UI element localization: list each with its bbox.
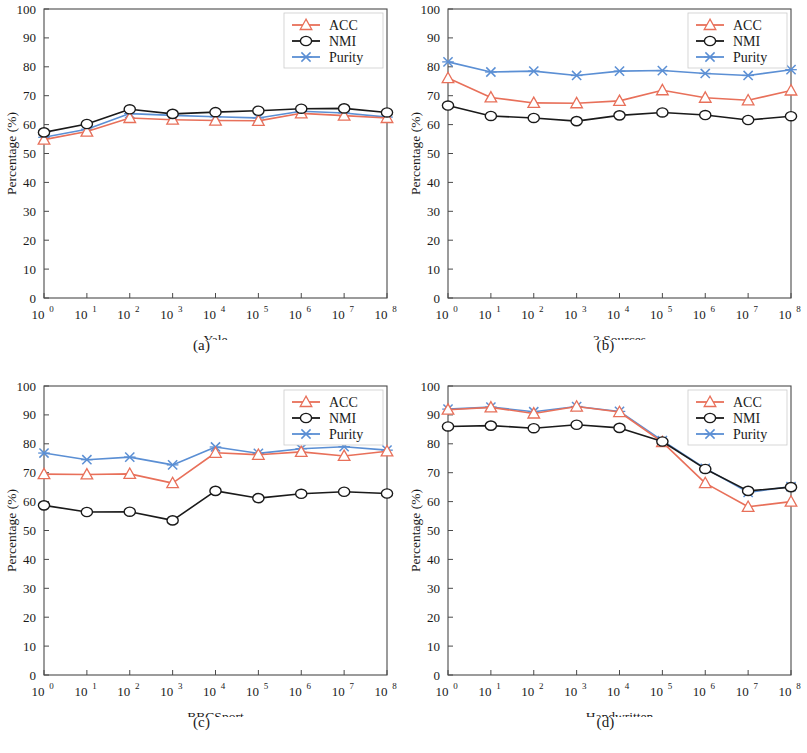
x-tick-label: 105 (246, 681, 269, 699)
plot-svg-a: 0102030405060708090100100101102103104105… (0, 0, 403, 340)
legend: ACCNMIPurity (284, 13, 383, 68)
x-tick-label: 108 (779, 681, 802, 699)
svg-text:6: 6 (307, 681, 312, 691)
svg-text:10: 10 (779, 684, 792, 699)
y-tick-label: 50 (427, 523, 440, 538)
x-tick-label: 107 (332, 681, 355, 699)
legend-label-acc: ACC (329, 18, 358, 33)
x-tick-label: 101 (478, 304, 500, 322)
svg-text:10: 10 (332, 307, 345, 322)
series-acc (442, 72, 797, 107)
x-tick-label: 108 (779, 304, 802, 322)
y-tick-label: 0 (434, 668, 441, 683)
data-point-nmi-3 (167, 109, 178, 118)
x-tick-label: 103 (160, 304, 183, 322)
x-tick-label: 108 (375, 681, 398, 699)
y-tick-label: 70 (23, 88, 36, 103)
y-tick-label: 80 (427, 59, 440, 74)
data-point-acc-5 (657, 84, 669, 94)
chart-panel-a: 0102030405060708090100100101102103104105… (0, 0, 403, 376)
y-tick-label: 30 (427, 581, 440, 596)
x-tick-label: 103 (564, 681, 587, 699)
x-tick-label: 103 (160, 681, 183, 699)
data-point-nmi-3 (571, 117, 582, 126)
data-point-nmi-6 (700, 464, 711, 473)
svg-text:7: 7 (349, 681, 354, 691)
y-tick-label: 10 (23, 639, 36, 654)
svg-text:10: 10 (74, 307, 87, 322)
legend-label-purity: Purity (329, 50, 363, 65)
svg-text:3: 3 (582, 681, 587, 691)
y-tick-label: 30 (23, 204, 36, 219)
y-tick-label: 60 (23, 494, 36, 509)
data-point-nmi-7 (743, 115, 754, 124)
data-point-acc-1 (485, 92, 497, 102)
y-tick-label: 20 (23, 610, 36, 625)
data-point-acc-8 (785, 85, 797, 95)
svg-text:0: 0 (453, 304, 458, 314)
data-point-purity-3 (167, 460, 179, 469)
svg-text:6: 6 (307, 304, 312, 314)
svg-text:10: 10 (289, 307, 302, 322)
svg-text:1: 1 (496, 304, 501, 314)
data-point-nmi-1 (81, 119, 92, 128)
svg-text:10: 10 (779, 307, 792, 322)
y-tick-label: 10 (23, 262, 36, 277)
series-nmi (38, 486, 392, 525)
data-point-nmi-5 (657, 437, 668, 446)
data-point-nmi-5 (253, 106, 264, 115)
legend-label-acc: ACC (329, 395, 358, 410)
svg-text:3: 3 (178, 681, 183, 691)
x-tick-label: 106 (693, 304, 716, 322)
data-point-nmi-2 (124, 105, 135, 114)
legend-marker-nmi (300, 413, 311, 422)
y-tick-label: 0 (434, 291, 441, 306)
y-tick-label: 20 (23, 233, 36, 248)
chart-panel-c: 0102030405060708090100100101102103104105… (0, 377, 403, 753)
y-tick-label: 40 (23, 175, 36, 190)
data-point-nmi-7 (743, 486, 754, 495)
data-point-nmi-0 (442, 101, 453, 110)
legend-label-purity: Purity (733, 50, 767, 65)
svg-text:3: 3 (582, 304, 587, 314)
plot-svg-c: 0102030405060708090100100101102103104105… (0, 377, 403, 717)
svg-text:10: 10 (564, 307, 577, 322)
svg-text:6: 6 (711, 304, 716, 314)
x-tick-label: 106 (289, 681, 312, 699)
x-tick-label: 105 (246, 304, 269, 322)
y-tick-label: 70 (427, 88, 440, 103)
svg-text:4: 4 (221, 304, 226, 314)
y-axis-title: Percentage (%) (408, 112, 423, 195)
svg-text:5: 5 (264, 304, 269, 314)
plot-svg-b: 0102030405060708090100100101102103104105… (404, 0, 807, 340)
svg-text:8: 8 (796, 304, 801, 314)
y-tick-label: 50 (23, 523, 36, 538)
data-point-nmi-6 (700, 110, 711, 119)
data-point-nmi-5 (253, 494, 264, 503)
x-tick-label: 100 (32, 681, 55, 699)
data-point-purity-5 (657, 66, 669, 75)
svg-text:0: 0 (453, 681, 458, 691)
series-acc (38, 446, 393, 488)
svg-text:8: 8 (796, 681, 801, 691)
data-point-acc-6 (295, 446, 307, 456)
svg-text:2: 2 (135, 304, 140, 314)
data-point-nmi-6 (296, 104, 307, 113)
svg-text:10: 10 (736, 307, 749, 322)
subcaption-d: (d) (404, 714, 807, 731)
x-tick-label: 106 (693, 681, 716, 699)
svg-text:2: 2 (539, 681, 544, 691)
data-point-acc-8 (785, 496, 797, 506)
y-tick-label: 90 (427, 30, 440, 45)
x-tick-label: 101 (74, 681, 96, 699)
svg-text:10: 10 (521, 307, 534, 322)
y-tick-label: 40 (427, 175, 440, 190)
x-tick-label: 100 (436, 681, 459, 699)
legend-label-acc: ACC (733, 18, 762, 33)
x-tick-label: 105 (650, 681, 673, 699)
x-tick-label: 107 (736, 681, 759, 699)
svg-text:10: 10 (650, 684, 663, 699)
svg-text:10: 10 (117, 684, 130, 699)
svg-text:1: 1 (496, 681, 501, 691)
svg-text:8: 8 (392, 304, 397, 314)
